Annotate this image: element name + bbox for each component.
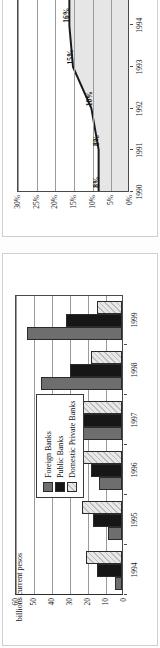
credit-share-data-label: 10%: [85, 91, 94, 106]
credit-share-chart-rotated-canvas: 8%8%10%15%16%16% 0%5%10%15%20%25%30% 199…: [3, 0, 158, 237]
bank-assets-bar-public-banks: [93, 514, 122, 527]
credit-share-x-tick: 1992: [135, 101, 144, 116]
legend-label-public-banks: Public Banks: [56, 436, 65, 478]
legend-swatch-foreign-banks: [43, 482, 53, 492]
bank-assets-bar-domestic-private-banks: [82, 401, 122, 414]
credit-share-x-tickmark: [130, 66, 133, 67]
credit-share-y-tick: 25%: [31, 195, 40, 209]
credit-share-gridline: [55, 0, 56, 191]
credit-share-data-label: 15%: [66, 50, 75, 65]
bank-assets-bar-foreign-banks: [27, 327, 122, 340]
bank-assets-bar-public-banks: [66, 314, 122, 327]
bank-assets-y-tick: 20: [83, 598, 92, 606]
credit-share-x-tickmark: [130, 149, 133, 150]
bank-assets-bar-public-banks: [97, 564, 122, 577]
legend-swatch-public-banks: [55, 482, 65, 492]
bank-assets-bar-foreign-banks: [108, 527, 122, 540]
bank-assets-y-tick: 40: [47, 598, 56, 606]
credit-share-x-tick: 1991: [135, 143, 144, 158]
bank-assets-bar-public-banks: [91, 464, 122, 477]
credit-share-data-label: 8%: [92, 176, 101, 187]
credit-share-y-tick: 20%: [50, 195, 59, 209]
credit-share-gridline: [37, 0, 38, 191]
bank-assets-x-tickmark: [124, 544, 127, 545]
bank-assets-x-tick: 1994: [130, 563, 139, 578]
credit-share-y-tick: 15%: [69, 195, 78, 209]
bank-assets-chart-rotated-canvas: Foreign Banks Public Banks Domestic Priv…: [3, 254, 158, 646]
bank-assets-gridline: [88, 296, 89, 594]
credit-share-x-tickmark: [130, 108, 133, 109]
credit-share-y-tick: 30%: [13, 195, 22, 209]
bank-assets-y-tick: 30: [65, 598, 74, 606]
bank-assets-y-tick: 50: [29, 598, 38, 606]
credit-share-gridline: [111, 0, 112, 191]
bank-assets-gridline: [106, 296, 107, 594]
bank-assets-bar-domestic-private-banks: [91, 351, 122, 364]
credit-share-y-axis: 0%5%10%15%20%25%30%: [17, 195, 129, 237]
bank-assets-bar-foreign-banks: [115, 577, 122, 590]
bank-assets-x-tickmark: [124, 594, 127, 595]
bank-assets-y-tick: 0: [119, 598, 128, 602]
credit-share-x-tick: 1994: [135, 18, 144, 33]
bank-assets-x-tick: 1999: [130, 313, 139, 328]
bank-assets-x-tick: 1997: [130, 413, 139, 428]
credit-share-plot-area: 8%8%10%15%16%16%: [17, 0, 129, 192]
credit-share-x-axis: 1990199119921993199419951996: [130, 0, 158, 192]
credit-share-x-tick: 1990: [135, 185, 144, 200]
credit-share-gridline: [18, 0, 19, 191]
bank-assets-bar-foreign-banks: [99, 477, 122, 490]
credit-share-data-label: 16%: [62, 8, 71, 23]
credit-share-x-tickmark: [130, 191, 133, 192]
credit-share-x-tickmark: [130, 24, 133, 25]
bank-assets-x-tick: 1995: [130, 513, 139, 528]
bank-assets-y-axis-title-wrap: billions current pesos: [15, 627, 123, 641]
bank-assets-x-tickmark: [124, 394, 127, 395]
bank-assets-x-tickmark: [124, 444, 127, 445]
credit-share-chart-panel: 8%8%10%15%16%16% 0%5%10%15%20%25%30% 199…: [2, 0, 158, 237]
bank-assets-x-tick: 1998: [130, 363, 139, 378]
legend-swatch-domestic-private-banks: [67, 482, 77, 492]
bank-assets-bar-domestic-private-banks: [82, 501, 122, 514]
bank-assets-x-tickmark: [124, 344, 127, 345]
bank-assets-x-axis: 199419951996199719981999: [124, 295, 154, 595]
legend-item-public-banks: Public Banks: [55, 401, 65, 492]
legend-item-domestic-private-banks: Domestic Private Banks: [67, 401, 77, 492]
bank-assets-legend: Foreign Banks Public Banks Domestic Priv…: [36, 394, 84, 498]
credit-share-x-tick: 1993: [135, 60, 144, 75]
bank-assets-x-tick: 1996: [130, 463, 139, 478]
figure-page: 8%8%10%15%16%16% 0%5%10%15%20%25%30% 199…: [0, 0, 160, 648]
legend-label-foreign-banks: Foreign Banks: [44, 431, 53, 478]
credit-share-y-tick: 0%: [125, 195, 134, 205]
credit-share-gridline: [74, 0, 75, 191]
bank-assets-y-axis-title: billions current pesos: [15, 533, 24, 641]
legend-label-domestic-private-banks: Domestic Private Banks: [68, 401, 77, 478]
credit-share-data-label: 8%: [92, 135, 101, 146]
bank-assets-bar-public-banks: [70, 364, 122, 377]
bank-assets-plot-area: Foreign Banks Public Banks Domestic Priv…: [15, 295, 123, 595]
bank-assets-y-tick: 10: [101, 598, 110, 606]
legend-item-foreign-banks: Foreign Banks: [43, 401, 53, 492]
bank-assets-chart-panel: Foreign Banks Public Banks Domestic Priv…: [2, 253, 158, 646]
bank-assets-gridline: [34, 296, 35, 594]
bank-assets-bar-foreign-banks: [41, 377, 122, 390]
bank-assets-bar-domestic-private-banks: [97, 301, 122, 314]
credit-share-y-tick: 5%: [106, 195, 115, 205]
bank-assets-bar-domestic-private-banks: [86, 551, 122, 564]
bank-assets-x-tickmark: [124, 494, 127, 495]
credit-share-y-tick: 10%: [87, 195, 96, 209]
